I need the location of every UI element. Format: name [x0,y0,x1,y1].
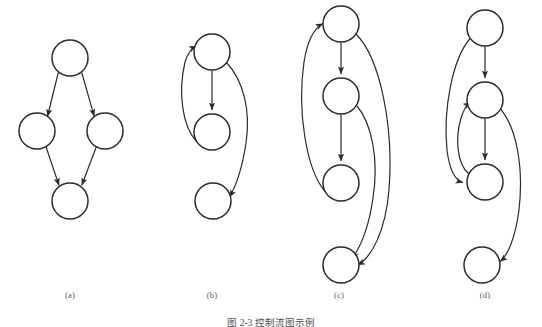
edge-a1-a2 [48,73,59,117]
node-d4 [464,247,500,283]
node-a2 [19,113,55,149]
panel-b-graph [182,34,248,219]
edge-c3-c1-back [302,24,326,193]
control-flow-graph-canvas [0,0,542,327]
node-a4 [52,183,88,219]
node-c4 [323,247,359,283]
node-c1 [323,6,359,42]
figure-container: (a) (b) (c) (d) 图 2-3 控制流图示例 [0,0,542,327]
panel-label-a: (a) [56,290,84,300]
figure-caption: 图 2-3 控制流图示例 [0,317,542,327]
node-b3 [195,183,231,219]
panel-label-d: (d) [471,290,499,300]
panel-label-b: (b) [198,290,226,300]
panel-d-graph [446,10,520,283]
edge-a3-a4 [82,146,97,185]
edge-c1-c4-forward-wide [356,34,390,265]
node-c2 [323,78,359,114]
edge-d3-d2-back [458,103,471,174]
node-d3 [467,164,503,200]
node-a3 [87,113,123,149]
node-d1 [467,10,503,46]
edge-d1-d3-forward [446,39,470,183]
node-b2 [194,114,230,150]
panel-label-c: (c) [325,290,353,300]
edge-a2-a4 [46,146,59,185]
edge-a1-a3 [82,73,95,117]
panel-c-graph [302,6,390,283]
node-b1 [194,34,230,70]
node-d2 [467,82,503,118]
node-c3 [323,165,359,201]
node-a1 [52,40,88,76]
panel-a-graph [19,40,123,219]
